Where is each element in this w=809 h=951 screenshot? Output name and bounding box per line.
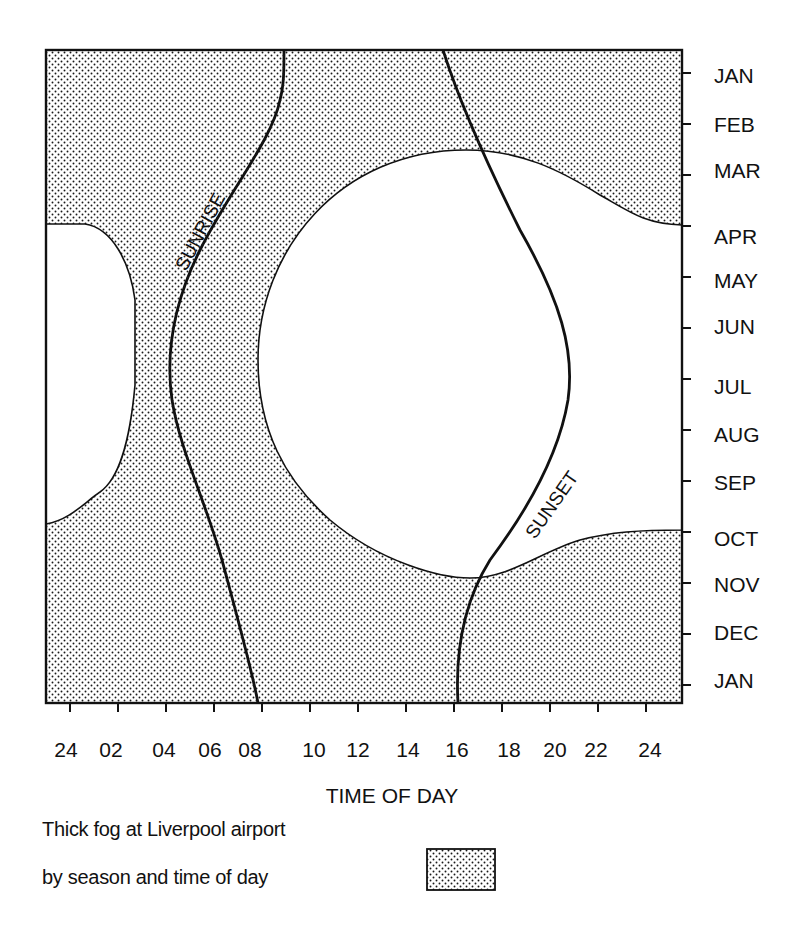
- x-tick-label: 16: [445, 738, 468, 761]
- y-tick-label: JAN: [714, 64, 754, 87]
- fog-chart: SUNRISE SUNSET 2402040608101214161820222…: [0, 0, 809, 951]
- x-axis-title: TIME OF DAY: [326, 784, 459, 807]
- y-tick-label: NOV: [714, 573, 760, 596]
- y-axis: JANFEBMARAPRMAYJUNJULAUGSEPOCTNOVDECJAN: [682, 64, 761, 692]
- x-tick-label: 02: [99, 738, 122, 761]
- x-tick-label: 12: [346, 738, 369, 761]
- y-tick-label: APR: [714, 225, 757, 248]
- y-tick-label: MAR: [714, 159, 761, 182]
- y-tick-label: OCT: [714, 527, 759, 550]
- y-tick-label: MAY: [714, 269, 758, 292]
- legend-fog-swatch: [427, 849, 495, 890]
- x-tick-label: 08: [238, 738, 261, 761]
- fog-area: [46, 50, 682, 703]
- y-tick-label: JUN: [714, 315, 755, 338]
- x-tick-label: 22: [584, 738, 607, 761]
- x-tick-label: 24: [54, 738, 78, 761]
- x-tick-label: 10: [302, 738, 325, 761]
- x-tick-label: 04: [152, 738, 176, 761]
- y-tick-label: FEB: [714, 113, 755, 136]
- y-tick-label: SEP: [714, 471, 756, 494]
- caption-line-1: Thick fog at Liverpool airport: [42, 818, 285, 841]
- x-tick-label: 06: [198, 738, 221, 761]
- y-tick-label: AUG: [714, 423, 760, 446]
- caption-line-2: by season and time of day: [42, 866, 268, 889]
- y-tick-label: JUL: [714, 375, 751, 398]
- x-tick-label: 20: [543, 738, 566, 761]
- y-tick-label: JAN: [714, 669, 754, 692]
- y-tick-label: DEC: [714, 621, 758, 644]
- x-tick-label: 14: [396, 738, 420, 761]
- x-tick-label: 24: [638, 738, 662, 761]
- x-tick-label: 18: [497, 738, 520, 761]
- x-axis: 24020406081012141618202224: [54, 703, 662, 761]
